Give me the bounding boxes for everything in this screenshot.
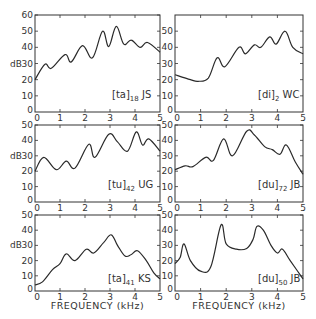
x-tick-label: 3	[107, 113, 113, 123]
y-tick-label: 20	[162, 75, 174, 85]
y-tick-label: 50	[162, 26, 174, 36]
y-tick-label: 30	[22, 59, 34, 69]
x-tick-label: 2	[223, 113, 229, 123]
x-tick-label: 5	[300, 292, 306, 302]
y-tick-label: 0	[167, 284, 173, 294]
x-tick-label: 1	[57, 113, 63, 123]
x-tick-label: 0	[174, 113, 180, 123]
x-tick-label: 5	[300, 113, 306, 123]
y-tick-label: 40	[162, 135, 174, 145]
x-tick-label: 1	[198, 113, 204, 123]
x-tick-label: 0	[34, 113, 40, 123]
y-tick-label: 30	[162, 240, 174, 250]
y-tick-label: 20	[162, 166, 174, 176]
x-tick-label: 0	[174, 203, 180, 213]
x-tick-label: 4	[132, 113, 138, 123]
y-tick-label: 50	[162, 120, 174, 130]
y-tick-label: 0	[27, 195, 33, 205]
spectrum-curve	[175, 130, 303, 175]
spectrum-curve	[35, 26, 160, 79]
x-axis-title: FREQUENCY (kHz)	[192, 300, 285, 311]
plot-frame	[35, 125, 160, 202]
y-tick-label: 20	[162, 256, 174, 266]
x-tick-label: 0	[174, 292, 180, 302]
y-tick-label: 30	[162, 151, 174, 161]
x-tick-label: 3	[107, 203, 113, 213]
spectrum-panel-bottom-left: 01234501020304050dB[ta]41 KSFREQUENCY (k…	[10, 210, 163, 311]
panel-label: [di]2 WC	[258, 89, 299, 103]
x-tick-label: 3	[249, 113, 255, 123]
y-tick-label: 10	[22, 91, 34, 101]
x-tick-label: 2	[82, 113, 88, 123]
y-tick-label: 30	[162, 59, 174, 69]
spectrum-curve	[175, 224, 303, 278]
y-tick-label: 50	[22, 120, 34, 130]
y-tick-label: 50	[22, 210, 34, 220]
x-axis-title: FREQUENCY (kHz)	[51, 300, 144, 311]
y-tick-label: 30	[22, 151, 34, 161]
spectrum-curve	[35, 132, 160, 171]
spectrum-panel-middle-right: 01234501020304050[du]72 JB	[162, 120, 306, 213]
x-tick-label: 3	[249, 203, 255, 213]
panel-label: [ta]18 JS	[112, 89, 151, 103]
y-tick-label: 20	[22, 256, 34, 266]
y-tick-label: 20	[22, 75, 34, 85]
x-tick-label: 2	[223, 203, 229, 213]
panel-label: [ta]41 KS	[108, 273, 151, 287]
y-tick-label: 0	[167, 105, 173, 115]
y-tick-label: 10	[22, 182, 34, 192]
x-tick-label: 4	[132, 203, 138, 213]
y-tick-label: 30	[22, 240, 34, 250]
y-tick-label: 0	[27, 284, 33, 294]
y-axis-label: dB	[10, 59, 22, 69]
y-tick-label: 40	[22, 135, 34, 145]
y-axis-label: dB	[10, 151, 22, 161]
spectrum-panel-middle-left: 01234501020304050dB[tu]42 UG	[10, 120, 163, 213]
panel-label: [tu]42 UG	[108, 179, 153, 193]
x-tick-label: 5	[157, 292, 163, 302]
y-tick-label: 10	[22, 271, 34, 281]
x-tick-label: 1	[57, 203, 63, 213]
y-tick-label: 20	[22, 166, 34, 176]
x-tick-label: 4	[275, 113, 281, 123]
x-tick-label: 4	[275, 203, 281, 213]
spectrum-curve	[175, 31, 303, 81]
y-tick-label: 0	[27, 105, 33, 115]
y-tick-label: 10	[162, 91, 174, 101]
y-tick-label: 0	[167, 195, 173, 205]
y-tick-label: 50	[22, 26, 34, 36]
y-tick-label: 40	[22, 42, 34, 52]
spectra-figure: 0123450102030405060dB[ta]18 JS0123450102…	[0, 0, 316, 319]
panel-label: [du]72 JB	[258, 179, 301, 193]
x-tick-label: 2	[82, 203, 88, 213]
y-tick-label: 10	[162, 271, 174, 281]
y-tick-label: 60	[22, 10, 34, 20]
x-tick-label: 0	[34, 292, 40, 302]
spectrum-panel-top-left: 0123450102030405060dB[ta]18 JS	[10, 10, 163, 123]
panel-label: [du]50 JB	[258, 273, 301, 287]
x-tick-label: 1	[198, 203, 204, 213]
y-tick-label: 40	[22, 225, 34, 235]
y-tick-label: 40	[162, 42, 174, 52]
y-tick-label: 10	[162, 182, 174, 192]
spectrum-panel-top-right: 01234501020304050[di]2 WC	[162, 15, 306, 123]
y-tick-label: 50	[162, 210, 174, 220]
spectrum-panel-bottom-right: 01234501020304050[du]50 JBFREQUENCY (kHz…	[162, 210, 306, 311]
x-tick-label: 5	[300, 203, 306, 213]
y-tick-label: 40	[162, 225, 174, 235]
y-axis-label: dB	[10, 240, 22, 250]
x-tick-label: 0	[34, 203, 40, 213]
